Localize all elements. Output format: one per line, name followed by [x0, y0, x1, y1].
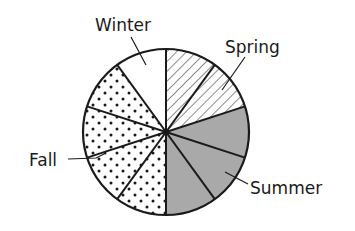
label-summer: Summer — [250, 178, 322, 198]
pie-center — [163, 129, 169, 135]
pie-chart: Winter Spring Fall Summer — [0, 0, 355, 231]
label-spring: Spring — [225, 37, 280, 57]
label-fall: Fall — [29, 150, 57, 170]
label-winter: Winter — [95, 15, 151, 35]
